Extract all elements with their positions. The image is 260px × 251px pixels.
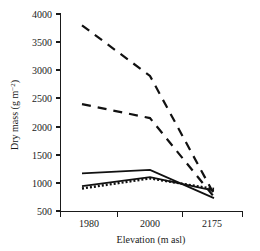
- x-axis-title: Elevation (m asl): [117, 234, 186, 246]
- y-axis-title-main: Dry mass (g m: [9, 91, 21, 150]
- y-tick-label-2000: 2000: [32, 122, 52, 133]
- y-tick-label-1000: 1000: [32, 178, 52, 189]
- x-axis-group: 1980 2000 2175 Elevation (m asl): [60, 212, 243, 247]
- chart-figure: 4000 3500 3000 2500 2000 1500 1000 500 1…: [0, 0, 260, 251]
- y-tick-label-4000: 4000: [32, 9, 52, 20]
- y-axis-title: Dry mass (g m−2): [9, 80, 22, 150]
- x-tick-label-2175: 2175: [202, 218, 222, 229]
- y-axis-group: 4000 3500 3000 2500 2000 1500 1000 500: [32, 9, 61, 217]
- y-tick-label-1500: 1500: [32, 150, 52, 161]
- y-axis-title-close: ): [9, 80, 21, 83]
- y-tick-label-3000: 3000: [32, 65, 52, 76]
- chart-canvas: 4000 3500 3000 2500 2000 1500 1000 500 1…: [0, 0, 260, 251]
- y-tick-label-500: 500: [37, 206, 52, 217]
- y-axis-title-group: Dry mass (g m−2): [9, 80, 22, 150]
- y-tick-label-2500: 2500: [32, 93, 52, 104]
- series-line-1-long-dashed-upper: [82, 25, 214, 194]
- x-tick-label-1980: 1980: [79, 218, 99, 229]
- x-tick-label-2000: 2000: [140, 218, 160, 229]
- y-tick-label-3500: 3500: [32, 37, 52, 48]
- series-group: [82, 25, 214, 198]
